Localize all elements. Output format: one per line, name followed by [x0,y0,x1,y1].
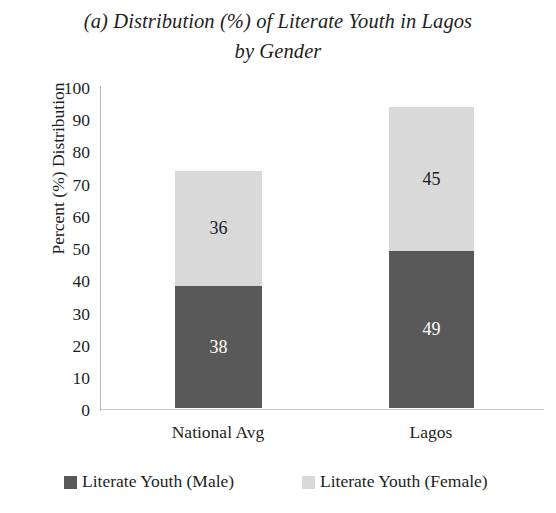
legend-item-male[interactable]: Literate Youth (Male) [64,471,234,492]
bar-column-national-avg[interactable]: 38 36 [175,171,262,408]
bar-value-national-avg-male: 38 [210,337,228,358]
y-tick-40: 40 [44,273,90,291]
y-tick-60: 60 [44,209,90,227]
bar-value-lagos-male: 49 [423,319,441,340]
y-tick-70: 70 [44,177,90,195]
y-tick-0: 0 [44,402,90,420]
legend-swatch-female-icon [302,476,315,489]
plot-area: 38 36 49 45 [101,88,543,408]
x-label-national-avg: National Avg [130,422,306,443]
y-tick-100: 100 [44,80,90,98]
y-tick-90: 90 [44,112,90,130]
x-axis-baseline [100,409,544,410]
y-tick-20: 20 [44,338,90,356]
y-tick-80: 80 [44,144,90,162]
x-label-lagos: Lagos [343,422,519,443]
y-tick-50: 50 [44,241,90,259]
chart-legend: Literate Youth (Male) Literate Youth (Fe… [0,471,556,497]
bar-segment-lagos-male[interactable]: 49 [389,251,474,408]
legend-item-female[interactable]: Literate Youth (Female) [302,471,488,492]
legend-label-male: Literate Youth (Male) [82,471,234,492]
bar-column-lagos[interactable]: 49 45 [389,107,474,408]
bar-value-lagos-female: 45 [423,169,441,190]
bar-segment-lagos-female[interactable]: 45 [389,107,474,251]
y-tick-10: 10 [44,370,90,388]
y-tick-30: 30 [44,306,90,324]
bar-segment-national-avg-male[interactable]: 38 [175,286,262,408]
chart-figure: (a) Distribution (%) of Literate Youth i… [0,0,556,513]
bar-segment-national-avg-female[interactable]: 36 [175,171,262,286]
legend-swatch-male-icon [64,476,77,489]
legend-label-female: Literate Youth (Female) [320,471,488,492]
bar-value-national-avg-female: 36 [210,218,228,239]
